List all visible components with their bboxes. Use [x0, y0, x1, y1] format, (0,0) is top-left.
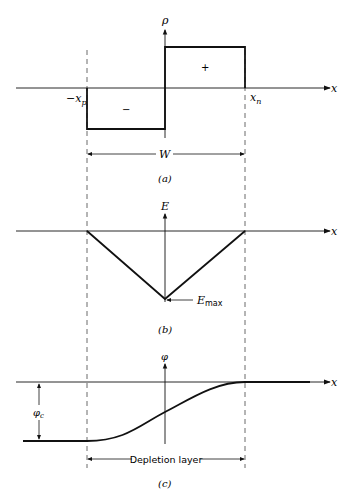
e-axis-label: E	[160, 200, 169, 213]
panel-a-charge-density: x ρ − + −xp xn W (a)	[16, 14, 338, 184]
field-profile	[87, 231, 245, 299]
xn-label: xn	[250, 91, 261, 106]
emax-label: Emax	[196, 294, 223, 308]
rho-axis-label: ρ	[161, 14, 169, 27]
x-axis-label-c: x	[331, 376, 338, 389]
negative-sign: −	[122, 104, 130, 115]
pn-junction-diagram: x ρ − + −xp xn W (a) x E Emax (b) x φ φc	[0, 0, 342, 498]
depletion-layer-label: Depletion layer	[130, 454, 203, 465]
x-axis-label-a: x	[331, 82, 338, 95]
potential-curve	[23, 382, 310, 441]
caption-b: (b)	[158, 324, 172, 335]
positive-sign: +	[201, 62, 209, 73]
caption-c: (c)	[158, 478, 172, 489]
phi-axis-label: φ	[161, 351, 168, 362]
phi-c-label: φc	[33, 407, 44, 420]
caption-a: (a)	[158, 173, 172, 184]
panel-b-electric-field: x E Emax (b)	[16, 200, 338, 335]
width-label: W	[159, 148, 172, 161]
minus-xp-label: −xp	[66, 92, 87, 107]
x-axis-label-b: x	[331, 225, 338, 238]
panel-c-potential: x φ φc Depletion layer (c)	[16, 351, 338, 489]
